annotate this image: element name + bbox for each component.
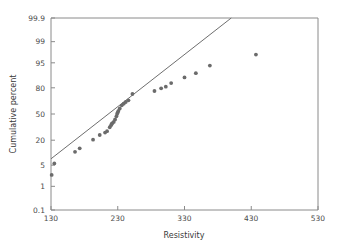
data-point	[98, 133, 102, 137]
data-point	[50, 173, 54, 177]
y-tick-label: 95	[35, 59, 45, 68]
data-point	[91, 138, 95, 142]
x-axis-title: Resistivity	[164, 231, 205, 240]
data-point	[73, 150, 77, 154]
figure-background	[0, 0, 347, 250]
data-point	[153, 89, 157, 93]
y-tick-label: 1	[40, 182, 45, 191]
data-point	[183, 76, 187, 80]
y-tick-label: 99.9	[28, 14, 45, 23]
x-tick-label: 430	[244, 214, 259, 223]
y-tick-label: 20	[35, 136, 45, 145]
data-point	[208, 64, 212, 68]
data-point	[194, 71, 198, 75]
data-point	[164, 85, 168, 89]
data-point	[159, 86, 163, 90]
y-tick-label: 80	[35, 84, 45, 93]
data-point	[131, 92, 135, 96]
y-tick-label: 50	[35, 110, 45, 119]
y-tick-label: 99	[35, 37, 45, 46]
x-tick-label: 530	[311, 214, 326, 223]
data-point	[118, 107, 122, 111]
data-point	[52, 162, 56, 166]
x-tick-label: 230	[111, 214, 126, 223]
x-tick-label: 130	[44, 214, 59, 223]
y-axis-title: Cumulative percent	[9, 75, 18, 154]
y-tick-label: 5	[40, 161, 45, 170]
probability-plot-figure: 99.99995805020510.1 130230330430530 Resi…	[0, 0, 347, 250]
data-point	[105, 129, 109, 133]
x-tick-label: 330	[177, 214, 192, 223]
data-point	[78, 146, 82, 150]
data-point	[254, 53, 258, 57]
probability-plot-canvas: 99.99995805020510.1 130230330430530 Resi…	[0, 0, 347, 250]
data-point	[127, 98, 131, 102]
data-point	[169, 81, 173, 85]
